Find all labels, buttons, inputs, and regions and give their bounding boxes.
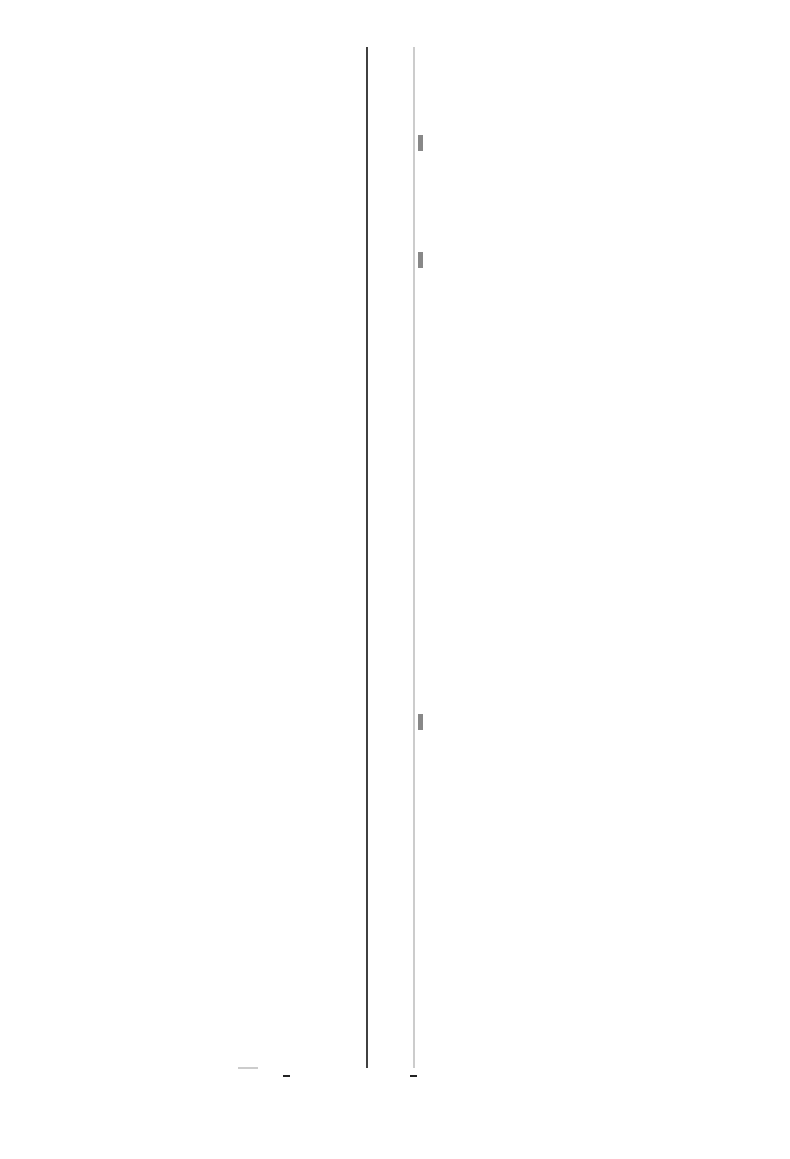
max-sgene-marker: [418, 714, 423, 730]
max-isc-marker: [418, 135, 423, 151]
figure-canvas: [0, 0, 790, 1159]
max-annotations: [418, 135, 423, 730]
max-mgs-marker: [418, 252, 423, 268]
rotated-figure: [0, 0, 790, 1159]
